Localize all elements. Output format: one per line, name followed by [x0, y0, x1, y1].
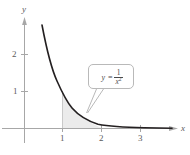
x-axis-label: x: [181, 124, 185, 133]
y-axis-arrowhead: [22, 17, 27, 25]
shaded-region: [63, 91, 102, 128]
equation-lhs: y: [101, 73, 105, 82]
equation-callout: y = 1 x2: [88, 64, 134, 89]
equation-callout-text: y = 1 x2: [89, 65, 135, 90]
y-axis-label: y: [22, 5, 26, 14]
y-tick-label-1: 1: [13, 87, 18, 96]
x-tick-label-2: 2: [99, 134, 104, 143]
equation-denominator: x2: [114, 78, 122, 86]
x-tick-label-3: 3: [138, 134, 143, 143]
math-figure: y = 1 x2 y x 1 2 3 1 2: [0, 0, 190, 155]
equation-equals-sign: =: [108, 73, 113, 82]
y-tick-label-2: 2: [12, 50, 17, 59]
x-tick-label-1: 1: [60, 134, 65, 143]
equation-denominator-exponent: 2: [119, 76, 122, 82]
equation-fraction: 1 x2: [114, 69, 122, 86]
